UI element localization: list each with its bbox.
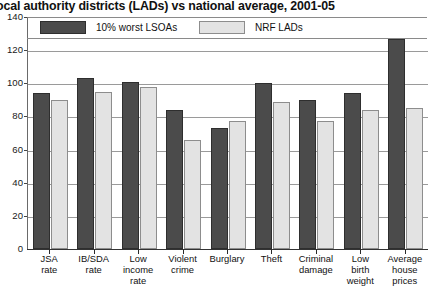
bar (33, 93, 50, 249)
bar (299, 100, 316, 249)
bar (211, 128, 228, 249)
y-axis-tick-mark (24, 83, 27, 84)
legend-label: NRF LADs (255, 22, 303, 34)
chart-title: ocal authority districts (LADs) vs natio… (0, 0, 428, 14)
legend-swatch (40, 21, 86, 34)
y-axis-tick-mark (24, 116, 27, 117)
x-axis-category-label: Theft (246, 253, 296, 264)
y-axis-tick-mark (24, 183, 27, 184)
gridline (28, 51, 428, 52)
plot-area (27, 17, 427, 249)
x-axis-category-label: JSA rate (24, 253, 74, 275)
y-axis-tick-label: 80 (0, 111, 23, 121)
legend-swatch (199, 21, 245, 34)
chart-legend: 10% worst LSOAsNRF LADs (27, 17, 427, 39)
y-axis-tick-label: 20 (0, 211, 23, 221)
bar (406, 108, 423, 249)
bar (51, 100, 68, 249)
bar (255, 83, 272, 249)
bar (95, 92, 112, 249)
y-axis-tick-mark (24, 150, 27, 151)
bar (388, 39, 405, 249)
y-axis-tick-label: 60 (0, 145, 23, 155)
y-axis-tick-label: 140 (0, 12, 23, 22)
bar (317, 121, 334, 249)
x-axis-category-label: IB/SDA rate (68, 253, 118, 275)
y-axis-tick-label: 100 (0, 78, 23, 88)
x-axis-category-label: Violent crime (157, 253, 207, 275)
bar (229, 121, 246, 249)
x-axis-category-label: Low income rate (113, 253, 163, 286)
bar (344, 93, 361, 249)
bar (77, 78, 94, 249)
legend-label: 10% worst LSOAs (96, 22, 177, 34)
bar (362, 110, 379, 249)
y-axis-tick-mark (24, 50, 27, 51)
y-axis-tick-label: 120 (0, 45, 23, 55)
x-axis-category-label: Average house prices (380, 253, 428, 286)
x-axis-category-label: Burglary (202, 253, 252, 264)
y-axis-tick-label: 0 (0, 244, 23, 254)
x-axis-category-label: Low birth weight (335, 253, 385, 286)
x-axis-category-label: Criminal damage (291, 253, 341, 275)
bar (140, 87, 157, 249)
y-axis-tick-label: 40 (0, 178, 23, 188)
bar (273, 102, 290, 249)
bar-chart: ocal authority districts (LADs) vs natio… (0, 0, 428, 287)
bar (184, 140, 201, 249)
bar (122, 82, 139, 249)
bar (166, 110, 183, 249)
y-axis-tick-mark (24, 216, 27, 217)
